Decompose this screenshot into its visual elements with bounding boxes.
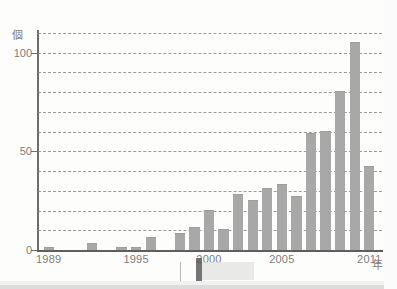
bar [335,91,345,250]
bar [189,227,199,250]
scan-artifact-right-edge [384,0,397,289]
x-axis-tick-label: 2005 [269,253,294,265]
scan-artifact-band [202,262,254,280]
bar [218,229,228,250]
bar [204,210,214,250]
bar [262,188,272,250]
bar [87,243,97,250]
x-axis-tick-label: 1995 [123,253,148,265]
y-axis-tick-mark [31,250,38,251]
bar [320,131,330,250]
bar [44,247,54,250]
x-axis-tick-label: 1989 [36,253,61,265]
bar [248,200,258,250]
bar [277,184,287,250]
bar [233,194,243,250]
x-axis-line [37,250,383,252]
bar [350,42,360,250]
y-axis-tick-mark [31,53,38,54]
bar-chart: 個 050100 19891995200020052011 年 [0,0,397,289]
bar [131,247,141,250]
y-axis-tick-labels: 050100 [0,0,36,289]
bar [146,237,156,250]
y-axis-tick-mark [31,151,38,152]
bar [116,247,126,250]
bar [291,196,301,250]
bar [175,233,185,250]
bar [364,166,374,250]
scan-artifact-bottom-edge-dark [0,285,397,289]
y-axis-tick-label: 100 [14,47,32,59]
bar-series [38,33,382,250]
bar [306,133,316,250]
x-axis-unit-label: 年 [372,256,383,272]
